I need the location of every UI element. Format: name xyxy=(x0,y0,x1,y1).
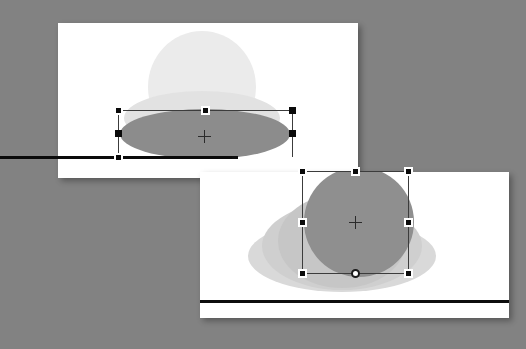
selection-frame-circle xyxy=(200,172,509,318)
resize-handle-top-center[interactable] xyxy=(351,167,360,176)
rotate-handle-bottom-center[interactable] xyxy=(351,269,360,278)
resize-handle-middle-left[interactable] xyxy=(298,218,307,227)
selection-frame-ellipse xyxy=(58,23,358,178)
crosshair-cursor-icon xyxy=(349,216,362,229)
slide-1[interactable] xyxy=(58,23,358,178)
slide-canvas xyxy=(0,0,526,349)
resize-handle-middle-right[interactable] xyxy=(404,218,413,227)
resize-handle-middle-right[interactable] xyxy=(289,130,296,137)
resize-handle-bottom-left[interactable] xyxy=(114,153,123,162)
resize-handle-middle-left[interactable] xyxy=(115,130,122,137)
resize-handle-bottom-left[interactable] xyxy=(298,269,307,278)
resize-handle-top-left[interactable] xyxy=(298,167,307,176)
resize-handle-bottom-right[interactable] xyxy=(404,269,413,278)
resize-handle-top-left[interactable] xyxy=(114,106,123,115)
resize-handle-top-center[interactable] xyxy=(201,106,210,115)
crosshair-cursor-icon xyxy=(198,130,211,143)
resize-handle-top-right[interactable] xyxy=(404,167,413,176)
slide-2[interactable] xyxy=(200,172,509,318)
resize-handle-top-right[interactable] xyxy=(289,107,296,114)
